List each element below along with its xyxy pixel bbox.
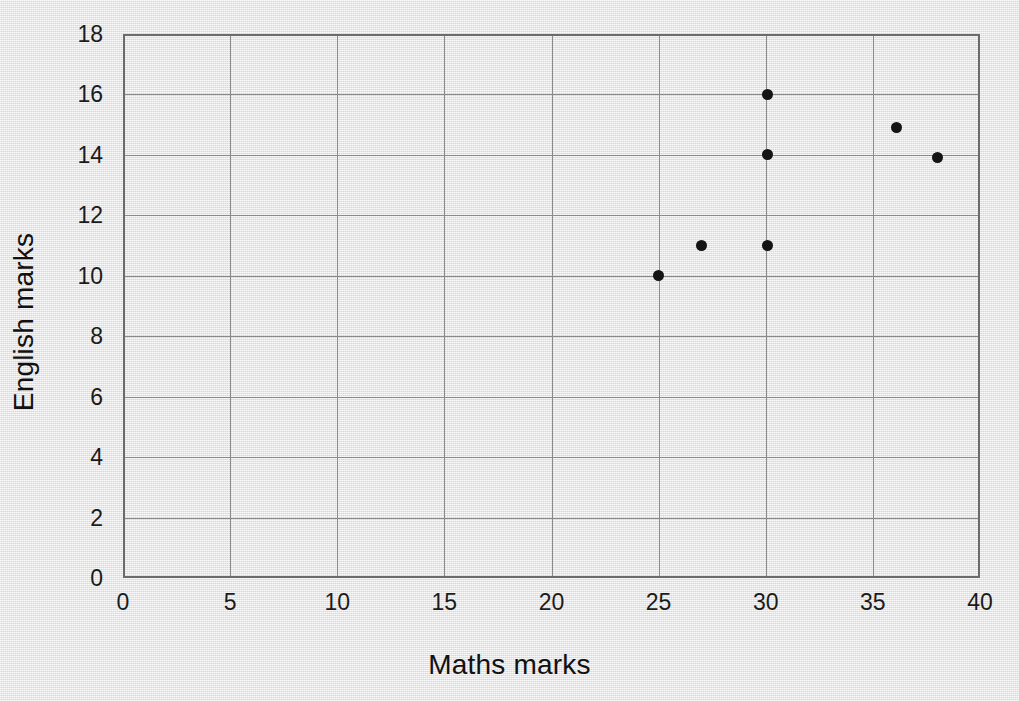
x-tick-label-10: 10 bbox=[297, 589, 377, 616]
y-tick-label-8: 8 bbox=[13, 323, 103, 350]
x-axis-title: Maths marks bbox=[0, 649, 1019, 681]
x-tick-label-30: 30 bbox=[726, 589, 806, 616]
y-tick-label-18: 18 bbox=[13, 21, 103, 48]
x-tick-label-5: 5 bbox=[190, 589, 270, 616]
y-tick-label-6: 6 bbox=[13, 383, 103, 410]
y-tick-label-12: 12 bbox=[13, 202, 103, 229]
y-tick-label-16: 16 bbox=[13, 81, 103, 108]
y-tick-label-4: 4 bbox=[13, 444, 103, 471]
plot-frame bbox=[123, 34, 980, 578]
x-tick-label-20: 20 bbox=[512, 589, 592, 616]
y-tick-label-10: 10 bbox=[13, 262, 103, 289]
y-tick-label-14: 14 bbox=[13, 141, 103, 168]
x-tick-label-35: 35 bbox=[833, 589, 913, 616]
x-tick-label-0: 0 bbox=[83, 589, 163, 616]
x-tick-label-40: 40 bbox=[940, 589, 1019, 616]
x-tick-label-25: 25 bbox=[619, 589, 699, 616]
x-tick-label-15: 15 bbox=[404, 589, 484, 616]
y-tick-label-0: 0 bbox=[13, 565, 103, 592]
y-tick-label-2: 2 bbox=[13, 504, 103, 531]
plot-area bbox=[123, 34, 980, 578]
